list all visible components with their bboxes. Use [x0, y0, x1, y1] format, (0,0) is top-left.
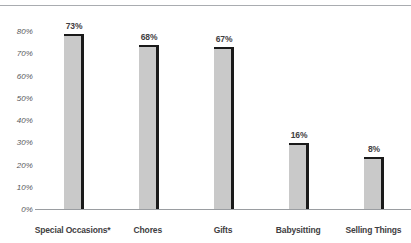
- bar: [139, 45, 159, 209]
- bar-value-label: 16%: [277, 130, 321, 140]
- y-axis: 80%70%60%50%40%30%20%10%0%: [0, 0, 33, 243]
- y-axis-tick-label: 70%: [0, 49, 33, 58]
- bar-value-label: 73%: [52, 21, 96, 31]
- y-axis-tick-label: 30%: [0, 138, 33, 147]
- header-divider: [0, 5, 411, 6]
- x-axis-tick-label: Selling Things: [325, 225, 411, 235]
- bar: [214, 47, 234, 209]
- bar: [364, 157, 384, 209]
- y-axis-tick-label: 0%: [0, 205, 33, 214]
- x-axis: Special Occasions*ChoresGiftsBabysitting…: [0, 225, 411, 243]
- x-axis-line: [35, 209, 411, 210]
- bar-value-label: 67%: [202, 34, 246, 44]
- y-axis-tick-label: 10%: [0, 183, 33, 192]
- bar: [289, 143, 309, 209]
- bar-value-label: 8%: [352, 144, 396, 154]
- y-axis-tick-label: 50%: [0, 94, 33, 103]
- y-axis-tick-label: 80%: [0, 27, 33, 36]
- bar-chart: 80%70%60%50%40%30%20%10%0% Special Occas…: [0, 0, 411, 243]
- y-axis-tick-label: 60%: [0, 72, 33, 81]
- bar: [64, 34, 84, 209]
- y-axis-tick-label: 40%: [0, 116, 33, 125]
- bar-value-label: 68%: [127, 32, 171, 42]
- y-axis-tick-label: 20%: [0, 161, 33, 170]
